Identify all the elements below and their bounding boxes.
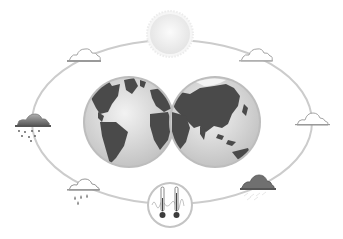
globe-asia-icon — [169, 76, 261, 168]
thermometer-icon — [148, 183, 192, 227]
rain-drops-icon — [74, 194, 88, 205]
rain-drops-icon — [18, 130, 40, 142]
cloud-icon — [295, 113, 330, 125]
mist-icon — [244, 192, 266, 200]
globe-americas-icon — [83, 76, 175, 168]
climate-cycle-diagram — [0, 0, 343, 239]
sun-icon — [147, 11, 193, 57]
cloud-icon — [67, 49, 101, 62]
dark-cloud-icon — [240, 175, 276, 200]
rain-cloud-icon — [67, 179, 100, 205]
